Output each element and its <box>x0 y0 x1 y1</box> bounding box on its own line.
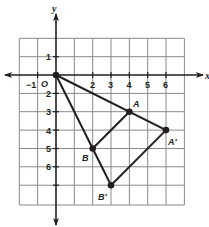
segment-a-prime-b-prime <box>111 130 166 185</box>
grid <box>19 38 184 205</box>
y-tick-label: 1 <box>46 52 51 62</box>
x-tick-label: 3 <box>108 80 113 90</box>
x-tick-label: 5 <box>145 80 150 90</box>
coordinate-plane: x y O −1 2 3 4 5 6 1 2 3 4 5 6 A B A′ B′ <box>0 0 209 227</box>
point-b-label: B <box>82 153 89 163</box>
x-tick-label: 4 <box>127 80 132 90</box>
y-tick-label: 5 <box>46 144 51 154</box>
y-tick-label: 3 <box>46 107 51 117</box>
y-tick-label: 6 <box>46 162 51 172</box>
point-a-label: A <box>132 99 140 109</box>
x-tick-label: −1 <box>26 80 36 90</box>
x-tick-label: 6 <box>163 80 168 90</box>
point-a-prime-label: A′ <box>167 137 177 147</box>
point-b-prime <box>108 182 115 189</box>
x-axis-label: x <box>204 70 209 81</box>
point-o <box>53 72 60 79</box>
origin-label: O <box>41 79 48 89</box>
y-tick-label: 4 <box>46 126 51 136</box>
point-a-prime <box>163 127 170 134</box>
point-a <box>126 108 133 115</box>
y-tick-label: 2 <box>46 89 51 99</box>
x-tick-label: 2 <box>90 80 95 90</box>
y-axis-label: y <box>51 3 57 14</box>
point-b-prime-label: B′ <box>98 192 107 202</box>
point-b <box>89 145 96 152</box>
